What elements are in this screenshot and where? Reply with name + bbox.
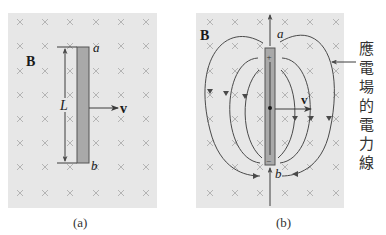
induced-field-lines-annotation: 應 電 場 的 電 力 線 <box>359 40 374 172</box>
annotation-char-2: 電 <box>359 59 374 77</box>
annotation-char-4: 的 <box>359 97 374 115</box>
magnetic-field-label-b: B <box>200 28 209 43</box>
end-label-b-bottom: b <box>275 166 282 181</box>
magnetic-field-label-a: B <box>26 54 35 69</box>
positive-charge-sign: + <box>267 52 272 62</box>
caption-a: (a) <box>73 215 87 230</box>
end-label-a-bottom: b <box>91 158 98 173</box>
end-label-a-top: a <box>93 40 100 55</box>
end-label-b-top: a <box>277 26 284 41</box>
panel-a: B L a b v (a) <box>8 13 157 230</box>
velocity-label-a: v <box>120 101 127 116</box>
annotation-char-3: 場 <box>359 78 374 96</box>
annotation-char-7: 線 <box>359 154 374 172</box>
velocity-label-b: v <box>301 92 308 107</box>
charge-dot <box>268 106 272 110</box>
caption-b: (b) <box>276 215 291 230</box>
conducting-rod-a <box>77 47 89 163</box>
annotation-char-6: 力 <box>359 135 374 153</box>
panel-b: B + − a b v <box>196 13 356 230</box>
length-label: L <box>59 98 68 113</box>
annotation-char-1: 應 <box>359 40 374 58</box>
negative-charge-sign: − <box>266 156 271 166</box>
annotation-char-5: 電 <box>359 116 374 134</box>
